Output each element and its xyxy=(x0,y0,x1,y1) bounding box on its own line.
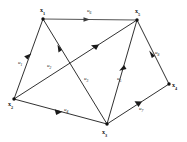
node-dot-x2 xyxy=(12,97,15,100)
edge-u4 xyxy=(14,99,107,124)
edge-u3 xyxy=(43,19,107,124)
edge-u1-arrowhead xyxy=(24,54,31,60)
edge-label-u7: u7 xyxy=(139,106,144,113)
node-dot-x1 xyxy=(41,17,44,20)
edge-u3-line xyxy=(43,19,107,124)
edge-u2 xyxy=(14,20,137,99)
edge-u5 xyxy=(107,20,137,124)
node-dot-group xyxy=(12,17,170,125)
edge-u6-arrowhead xyxy=(84,17,91,22)
node-label-x5: x5 xyxy=(135,7,140,16)
edge-label-u3: u3 xyxy=(84,76,89,83)
edge-label-group: u1 u2 u3 u4 u5 u6 u7 u8 xyxy=(18,8,160,114)
edge-u8 xyxy=(137,20,169,84)
edge-label-u6: u6 xyxy=(87,8,92,15)
edge-u1-line xyxy=(14,19,43,99)
edge-label-u1: u1 xyxy=(18,60,23,67)
edge-u8-line xyxy=(137,20,169,84)
edge-u7 xyxy=(107,84,169,124)
edge-group xyxy=(14,17,169,124)
edge-u4-arrowhead xyxy=(55,109,63,115)
node-label-x3: x3 xyxy=(102,128,107,137)
node-dot-x5 xyxy=(135,18,138,21)
edge-u6 xyxy=(43,17,137,22)
edge-label-u2: u2 xyxy=(47,63,52,70)
node-label-group: x1 x5 x2 x3 x4 xyxy=(8,6,178,137)
edge-u1 xyxy=(14,19,43,99)
node-dot-x3 xyxy=(105,122,108,125)
edge-u2-line xyxy=(14,20,137,99)
node-label-x2: x2 xyxy=(8,100,13,109)
graph-canvas: x1 x5 x2 x3 x4 u1 u2 u3 u4 u5 u6 u7 u8 xyxy=(0,0,187,142)
edge-u5-line xyxy=(107,20,137,124)
directed-graph-figure: x1 x5 x2 x3 x4 u1 u2 u3 u4 u5 u6 u7 u8 xyxy=(0,0,187,142)
node-label-x1: x1 xyxy=(40,6,45,15)
node-label-x4: x4 xyxy=(172,81,178,90)
edge-label-u8: u8 xyxy=(155,50,160,57)
edge-label-u4: u4 xyxy=(64,107,69,114)
node-dot-x4 xyxy=(167,82,170,85)
